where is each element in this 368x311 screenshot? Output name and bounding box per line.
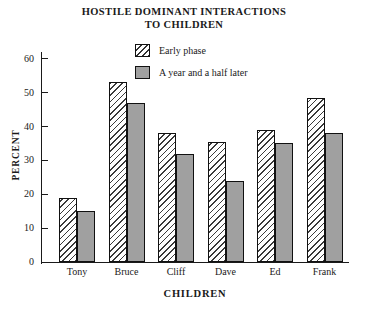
bar-frank-series2 [325,133,343,262]
x-category-label-dave: Dave [198,266,254,278]
y-tick-label-20: 20 [0,189,34,199]
y-tick-label-30: 30 [0,155,34,165]
y-tick-label-40: 40 [0,122,34,132]
y-tick-label-60: 60 [0,54,34,64]
x-category-label-cliff: Cliff [148,266,204,278]
x-category-label-ed: Ed [247,266,303,278]
x-axis-line [41,262,349,263]
bar-dave-series1 [208,142,226,262]
y-tick-label-0: 0 [0,257,34,267]
bar-ed-series1 [257,130,275,262]
chart-title-line-2: TO CHILDREN [0,18,368,31]
x-category-label-bruce: Bruce [99,266,155,278]
x-category-label-frank: Frank [297,266,353,278]
bar-cliff-series2 [176,154,194,262]
x-axis-label: CHILDREN [41,288,349,299]
bar-cliff-series1 [158,133,176,262]
y-tick-label-50: 50 [0,88,34,98]
bar-tony-series2 [77,211,95,262]
bar-bruce-series2 [127,103,145,262]
chart-title-line-1: HOSTILE DOMINANT INTERACTIONS [0,5,368,18]
chart-title: HOSTILE DOMINANT INTERACTIONS TO CHILDRE… [0,5,368,31]
y-tick-label-10: 10 [0,223,34,233]
bar-dave-series2 [226,181,244,262]
bar-ed-series2 [275,143,293,262]
bar-chart: HOSTILE DOMINANT INTERACTIONS TO CHILDRE… [0,0,368,311]
bar-tony-series1 [59,198,77,262]
x-category-label-tony: Tony [49,266,105,278]
bar-bruce-series1 [109,82,127,262]
plot-area [41,52,349,262]
bar-frank-series1 [307,98,325,262]
